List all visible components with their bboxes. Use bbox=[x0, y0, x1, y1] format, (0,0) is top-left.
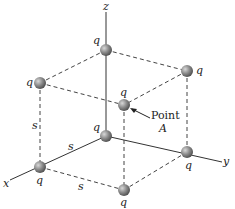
charge-label-bottom-front: q bbox=[120, 197, 127, 208]
x-axis-label: x bbox=[3, 178, 9, 189]
z-axis-label: z bbox=[103, 1, 109, 12]
charge-label-top-front: q bbox=[120, 87, 127, 98]
charge-bottom-front bbox=[118, 184, 130, 196]
side-label-front: s bbox=[78, 181, 84, 192]
point-a-label-line1: Point bbox=[151, 110, 180, 121]
charge-top-right bbox=[181, 65, 193, 77]
side-label-x: s bbox=[68, 141, 74, 152]
cube-charge-diagram: z x y q q q q q q q q s s s Point A bbox=[0, 0, 235, 209]
charge-label-top-right: q bbox=[196, 65, 203, 76]
charge-label-top-left: q bbox=[26, 77, 33, 88]
charge-bottom-back bbox=[100, 130, 112, 142]
charge-label-bottom-right: q bbox=[185, 160, 192, 171]
y-axis bbox=[106, 136, 222, 162]
point-a-label-line2: A bbox=[159, 123, 167, 134]
side-label-vertical: s bbox=[32, 120, 38, 131]
charge-bottom-right bbox=[181, 146, 193, 158]
charge-label-top-back: q bbox=[93, 35, 100, 46]
x-axis bbox=[10, 136, 106, 180]
charge-top-front bbox=[118, 99, 130, 111]
charge-bottom-left bbox=[34, 161, 46, 173]
charge-top-left bbox=[34, 77, 46, 89]
charge-label-bottom-left: q bbox=[36, 175, 43, 186]
charge-top-back bbox=[100, 44, 112, 56]
charge-label-bottom-back: q bbox=[93, 122, 100, 133]
y-axis-label: y bbox=[223, 156, 229, 167]
